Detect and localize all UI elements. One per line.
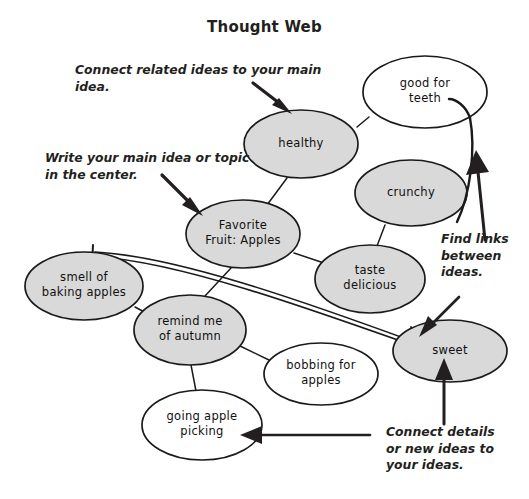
- edge-center-tastedelicious: [294, 253, 324, 263]
- edge-healthy-goodforteeth: [357, 117, 369, 127]
- edge-center-healthy: [267, 178, 287, 205]
- node-group: [25, 56, 507, 460]
- edge-center-remindautumn: [205, 268, 231, 296]
- arrow-head-icon: [466, 150, 489, 175]
- annotation-write-main-idea: Write your main idea or topic in the cen…: [45, 150, 260, 183]
- arrow-shaft: [478, 172, 485, 240]
- node-taste-delicious[interactable]: [315, 245, 425, 313]
- node-healthy[interactable]: [244, 110, 358, 178]
- node-bobbing-for-apples[interactable]: [264, 343, 378, 405]
- edge-remindautumn-goingpicking: [191, 365, 196, 391]
- arrow-find-links-upward: [466, 150, 489, 240]
- annotation-find-links: Find links between ideas.: [441, 231, 529, 281]
- arrow-connect-details-to-going-picking: [240, 426, 370, 444]
- node-smell-of-baking-apples[interactable]: [25, 252, 143, 320]
- thought-web-worksheet: Thought Web: [0, 0, 529, 499]
- annotation-connect-related-ideas: Connect related ideas to your main idea.: [75, 62, 335, 95]
- edge-crunchy-tastedelicious: [377, 225, 385, 246]
- annotation-connect-details: Connect details or new ideas to your ide…: [386, 424, 526, 474]
- node-going-apple-picking[interactable]: [142, 390, 262, 460]
- node-favorite-fruit-apples[interactable]: [186, 200, 300, 268]
- edge-remindautumn-bobbing: [240, 346, 271, 361]
- node-remind-me-of-autumn[interactable]: [134, 295, 246, 365]
- node-crunchy[interactable]: [355, 160, 467, 226]
- node-good-for-teeth[interactable]: [363, 56, 487, 128]
